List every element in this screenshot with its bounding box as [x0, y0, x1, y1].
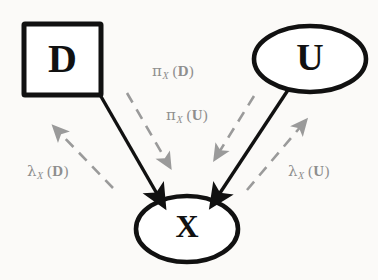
- paren-close: ): [203, 107, 208, 123]
- paren-open: (: [169, 63, 177, 79]
- diagram-canvas: D U X πX (D) πX (U) λX (D) λX (U): [0, 0, 378, 280]
- message-arrow-pi-x-u[interactable]: [218, 96, 254, 154]
- paren-open: (: [183, 107, 191, 123]
- greek-lambda-glyph: λ: [288, 162, 298, 180]
- node-shape-u[interactable]: [254, 26, 366, 92]
- diagram-graphics: [0, 0, 378, 280]
- message-subscript: X: [37, 170, 44, 181]
- message-subscript: X: [298, 170, 305, 181]
- message-argument: U: [313, 163, 324, 179]
- message-argument: D: [52, 163, 63, 179]
- node-shape-x[interactable]: [136, 196, 238, 262]
- message-label-lambda-x-d: λX (D): [27, 162, 69, 181]
- paren-close: ): [189, 63, 194, 79]
- paren-close: ): [324, 163, 329, 179]
- message-argument: D: [178, 63, 189, 79]
- paren-close: ): [63, 163, 68, 179]
- node-shape-d[interactable]: [24, 24, 101, 95]
- message-argument: U: [192, 107, 203, 123]
- message-label-pi-x-u: πX (U): [166, 106, 208, 125]
- greek-pi-glyph: π: [152, 62, 162, 80]
- greek-pi-glyph: π: [166, 106, 176, 124]
- greek-lambda-glyph: λ: [27, 162, 37, 180]
- message-label-pi-x-d: πX (D): [152, 62, 194, 81]
- message-label-lambda-x-u: λX (U): [288, 162, 330, 181]
